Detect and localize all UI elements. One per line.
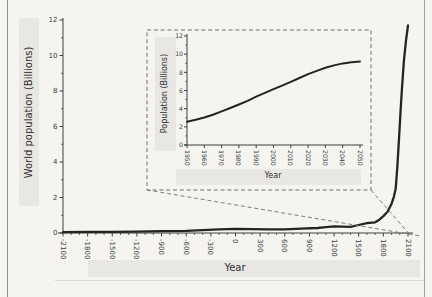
main-x-tick-label: -300 [206, 239, 214, 255]
main-x-ticks: -2100-1800-1500-1200-900-600-30003006009… [59, 233, 412, 259]
main-y-axis-label: World population (Billions) [23, 18, 36, 208]
inset-chart: 1950196019701980199020002010202020302040… [175, 32, 363, 166]
inset-y-tick-label: 10 [175, 50, 183, 57]
main-x-tick-label: -1200 [132, 239, 140, 259]
main-y-tick-label: 12 [49, 16, 58, 24]
inset-y-tick-label: 6 [179, 87, 183, 94]
main-x-tick-label: -600 [182, 239, 190, 255]
main-x-tick-label: -900 [157, 239, 165, 255]
inset-x-ticks: 1950196019701980199020002010202020302040… [184, 145, 364, 166]
zoom-indicator [147, 30, 420, 236]
inset-x-tick-label: 1990 [253, 150, 260, 166]
main-x-axis-label: Year [185, 262, 285, 273]
main-x-tick-label: 600 [280, 239, 288, 252]
main-population-line [63, 25, 408, 232]
main-x-tick-label: 300 [256, 239, 264, 252]
main-x-tick-label: 2100 [404, 239, 412, 257]
inset-x-tick-label: 2040 [339, 150, 346, 166]
main-x-tick-label: 1500 [354, 239, 362, 257]
main-x-tick-label: -1800 [83, 239, 91, 259]
inset-y-tick-label: 12 [175, 32, 183, 39]
main-x-tick-label: 0 [231, 239, 239, 243]
inset-x-tick-label: 1960 [201, 150, 208, 166]
inset-y-ticks: 024681012 [175, 32, 187, 148]
main-y-tick-label: 0 [53, 229, 57, 237]
population-chart-canvas: -2100-1800-1500-1200-900-600-30003006009… [0, 0, 432, 297]
main-x-tick-label: -2100 [59, 239, 67, 259]
inset-y-axis-label: Population (Billions) [160, 41, 171, 146]
inset-x-tick-label: 2000 [270, 150, 277, 166]
main-y-tick-label: 8 [53, 87, 57, 95]
inset-x-tick-label: 1970 [218, 150, 225, 166]
inset-x-tick-label: 1950 [184, 150, 191, 166]
main-chart: -2100-1800-1500-1200-900-600-30003006009… [49, 16, 413, 259]
main-x-tick-label: 900 [305, 239, 313, 252]
main-y-tick-label: 4 [53, 158, 58, 166]
main-axes-spines [58, 18, 413, 233]
main-y-ticks: 024681012 [49, 16, 63, 237]
inset-population-line [187, 61, 360, 121]
inset-x-axis-label: Year [243, 171, 303, 180]
inset-y-tick-label: 4 [179, 105, 183, 112]
inset-y-tick-label: 2 [179, 123, 183, 130]
main-x-tick-label: 1800 [379, 239, 387, 257]
inset-x-tick-label: 1980 [235, 150, 242, 166]
inset-x-tick-label: 2050 [357, 150, 364, 166]
main-x-tick-label: 1200 [330, 239, 338, 257]
main-y-tick-label: 2 [53, 194, 57, 202]
inset-x-tick-label: 2030 [322, 150, 329, 166]
inset-y-tick-label: 8 [179, 69, 183, 76]
inset-x-tick-label: 2020 [305, 150, 312, 166]
inset-y-tick-label: 0 [179, 141, 183, 148]
inset-x-tick-label: 2010 [287, 150, 294, 166]
main-x-tick-label: -1500 [108, 239, 116, 259]
main-y-tick-label: 10 [49, 52, 58, 60]
main-y-tick-label: 6 [53, 123, 58, 131]
